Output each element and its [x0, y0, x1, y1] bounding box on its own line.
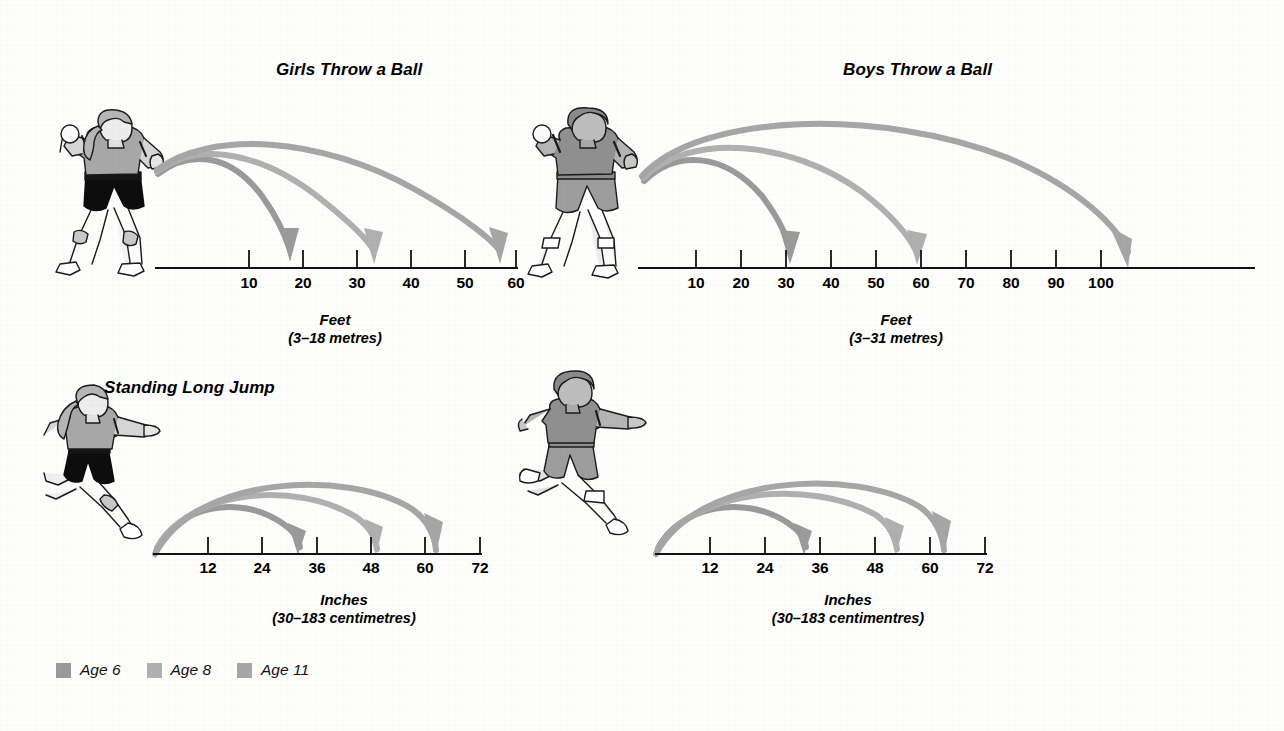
- tick-label: 90: [1047, 274, 1064, 292]
- legend: Age 6 Age 8 Age 11: [56, 661, 335, 679]
- panel-girls-jump: Standing Long Jump: [0, 365, 540, 665]
- arc-boys-age6: [644, 160, 790, 252]
- legend-swatch-icon: [147, 663, 162, 678]
- unit-label: Feet: [881, 311, 912, 328]
- tick-label: 24: [756, 559, 773, 577]
- unit-sublabel: (30–183 centimentres): [728, 609, 968, 628]
- boys-throw-unit-caption: Feet (3–31 metres): [806, 310, 986, 348]
- boys-throw-plot: [0, 0, 1284, 300]
- tick-label: 10: [687, 274, 704, 292]
- tick-label: 40: [822, 274, 839, 292]
- boys-jump-axis: [655, 537, 987, 554]
- tick-label: 48: [362, 559, 379, 577]
- arc-boys-age11: [642, 124, 1128, 252]
- unit-sublabel: (30–183 centimetres): [224, 609, 464, 628]
- boys-throw-axis: [638, 250, 1255, 268]
- arc-boysjump-age8: [657, 494, 897, 551]
- tick-label: 48: [866, 559, 883, 577]
- arc-girlsjump-age8: [156, 495, 377, 551]
- legend-item-age-8[interactable]: Age 8: [147, 661, 212, 679]
- legend-swatch-icon: [237, 663, 252, 678]
- arrowhead-girlsjump-age6: [288, 523, 306, 555]
- panel-boys-jump: 12 24 36 48 60 72 Inches (30–183 centime…: [500, 365, 1060, 665]
- tick-label: 60: [921, 559, 938, 577]
- tick-label: 20: [732, 274, 749, 292]
- figure-page: Girls Throw a Ball: [0, 0, 1284, 731]
- tick-label: 36: [308, 559, 325, 577]
- arrowhead-boys-age11: [1110, 227, 1132, 268]
- tick-label: 72: [976, 559, 993, 577]
- tick-label: 50: [867, 274, 884, 292]
- tick-label: 70: [957, 274, 974, 292]
- tick-label: 12: [199, 559, 216, 577]
- tick-label: 60: [912, 274, 929, 292]
- tick-label: 100: [1088, 274, 1114, 292]
- arrowhead-boys-age6: [780, 230, 800, 264]
- tick-label: 24: [253, 559, 270, 577]
- tick-label: 60: [416, 559, 433, 577]
- legend-label: Age 11: [261, 661, 309, 679]
- arrowhead-boysjump-age6: [794, 523, 812, 555]
- tick-label: 72: [471, 559, 488, 577]
- panel-boys-throw: Boys Throw a Ball: [0, 0, 1284, 365]
- tick-label: 80: [1002, 274, 1019, 292]
- legend-item-age-6[interactable]: Age 6: [56, 661, 121, 679]
- unit-label: Inches: [320, 591, 368, 608]
- legend-label: Age 8: [171, 661, 212, 679]
- boys-jump-plot: [500, 365, 1060, 585]
- boys-jump-unit-caption: Inches (30–183 centimentres): [728, 590, 968, 628]
- arrowhead-boys-age8: [907, 230, 927, 265]
- tick-label: 30: [777, 274, 794, 292]
- arrowhead-girlsjump-age8: [365, 519, 383, 555]
- legend-label: Age 6: [80, 661, 121, 679]
- unit-sublabel: (3–31 metres): [806, 329, 986, 348]
- tick-label: 12: [701, 559, 718, 577]
- arrowhead-boysjump-age8: [885, 517, 904, 555]
- legend-item-age-11[interactable]: Age 11: [237, 661, 309, 679]
- girls-jump-unit-caption: Inches (30–183 centimetres): [224, 590, 464, 628]
- tick-label: 36: [811, 559, 828, 577]
- legend-swatch-icon: [56, 663, 71, 678]
- girls-jump-plot: [0, 365, 540, 585]
- unit-label: Inches: [824, 591, 872, 608]
